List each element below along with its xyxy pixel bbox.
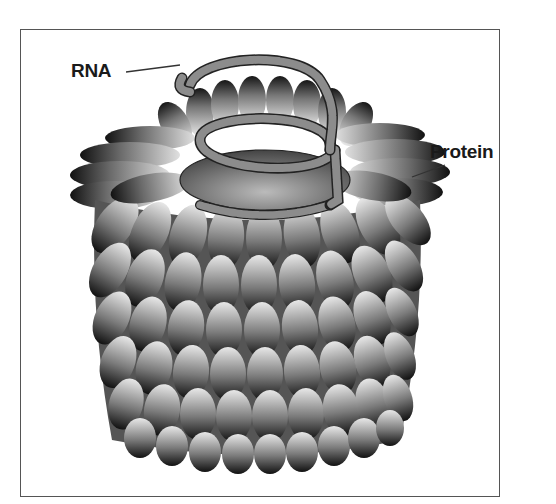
rna-label: RNA [71, 60, 111, 82]
body-subunits [80, 187, 439, 474]
protein-label: Protein [430, 141, 493, 163]
rna-leader-line [126, 65, 180, 72]
protein-coat [70, 76, 450, 474]
